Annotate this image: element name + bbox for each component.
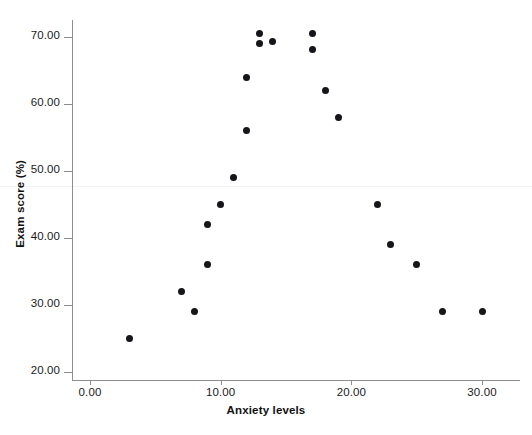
y-tick-label: 60.00 xyxy=(2,96,60,108)
y-axis-line xyxy=(72,20,73,380)
y-tick-20-00: 20.00 xyxy=(0,372,72,373)
y-tick-70-00: 70.00 xyxy=(0,37,72,38)
y-tick-mark xyxy=(64,171,72,172)
x-tick-label-10-00: 10.00 xyxy=(186,386,256,398)
y-tick-30-00: 30.00 xyxy=(0,305,72,306)
data-point xyxy=(178,288,185,295)
y-tick-mark xyxy=(64,372,72,373)
y-tick-mark xyxy=(64,305,72,306)
x-tick-mark-10-00 xyxy=(221,380,222,385)
x-tick-mark-0-00 xyxy=(90,380,91,385)
x-tick-mark-30-00 xyxy=(482,380,483,385)
y-tick-label: 40.00 xyxy=(2,230,60,242)
y-tick-label: 30.00 xyxy=(2,297,60,309)
data-point xyxy=(126,335,133,342)
data-point xyxy=(243,74,250,81)
y-tick-mark xyxy=(64,37,72,38)
y-tick-40-00: 40.00 xyxy=(0,238,72,239)
x-axis-line xyxy=(72,380,520,381)
data-point xyxy=(309,30,316,37)
data-point xyxy=(479,308,486,315)
y-tick-label: 20.00 xyxy=(2,364,60,376)
scatter-plot-figure: 20.0030.0040.0050.0060.0070.00 0.0010.00… xyxy=(0,0,532,435)
x-tick-mark-20-00 xyxy=(351,380,352,385)
plot-area xyxy=(90,37,482,372)
x-axis-title: Anxiety levels xyxy=(0,404,532,416)
y-tick-label: 70.00 xyxy=(2,29,60,41)
data-point xyxy=(335,114,342,121)
y-tick-mark xyxy=(64,104,72,105)
x-tick-label-20-00: 20.00 xyxy=(316,386,386,398)
x-tick-label-0-00: 0.00 xyxy=(55,386,125,398)
y-tick-mark xyxy=(64,238,72,239)
data-point xyxy=(322,87,329,94)
y-axis-title: Exam score (%) xyxy=(14,160,26,248)
x-tick-label-30-00: 30.00 xyxy=(447,386,517,398)
y-tick-60-00: 60.00 xyxy=(0,104,72,105)
y-tick-label: 50.00 xyxy=(2,163,60,175)
data-point xyxy=(374,201,381,208)
data-point xyxy=(309,46,316,53)
y-tick-50-00: 50.00 xyxy=(0,171,72,172)
